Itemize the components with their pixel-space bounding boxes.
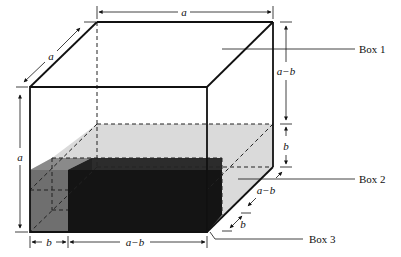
dim-bottom-left-label: b [46, 236, 52, 248]
box-diagram: a a a a−b b a−b b [0, 0, 401, 257]
dim-lower-depth-1-label: a−b [257, 184, 276, 196]
box1-label: Box 1 [359, 43, 386, 55]
dim-top-depth-label: a [48, 50, 54, 62]
dim-bottom-right-label: a−b [126, 236, 145, 248]
dim-top-depth [16, 22, 96, 87]
dim-left-height-label: a [17, 151, 23, 163]
dim-right-lower-label: b [283, 140, 289, 152]
box2-label: Box 2 [359, 173, 386, 185]
box3-label: Box 3 [309, 233, 336, 245]
dim-bottom [30, 236, 207, 248]
dim-top-width-label: a [181, 6, 187, 18]
box3-block [68, 158, 222, 232]
dim-right-upper-label: a−b [277, 65, 296, 77]
dim-left-height [15, 95, 28, 232]
dim-lower-depth-2-label: b [240, 218, 246, 230]
